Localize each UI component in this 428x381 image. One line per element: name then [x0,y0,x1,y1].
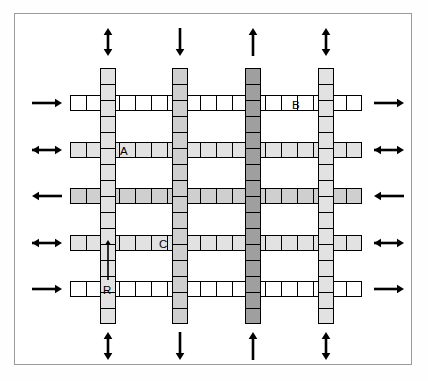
road-link[interactable] [246,293,260,309]
road-link[interactable] [246,229,260,245]
road-link[interactable] [173,117,187,133]
road-link[interactable] [298,282,314,296]
road-link[interactable] [266,96,282,110]
road-link[interactable] [282,282,298,296]
road-link[interactable] [217,282,233,296]
road-link[interactable] [201,236,217,250]
road-link[interactable] [136,96,152,110]
road-link[interactable] [173,197,187,213]
road-link[interactable] [173,245,187,261]
road-link[interactable] [101,165,115,181]
road-link[interactable] [319,245,333,261]
road-link[interactable] [319,197,333,213]
road-link[interactable] [101,197,115,213]
road-link[interactable] [246,101,260,117]
road-link[interactable] [282,236,298,250]
road-link[interactable] [173,293,187,309]
road-link[interactable] [217,143,233,157]
road-link[interactable] [173,277,187,293]
road-link[interactable] [217,189,233,203]
road-link[interactable] [152,143,168,157]
road-link[interactable] [217,236,233,250]
road-link[interactable] [120,236,136,250]
road-link[interactable] [201,96,217,110]
road-link[interactable] [319,85,333,101]
road-link[interactable] [266,282,282,296]
road-link[interactable] [319,133,333,149]
road-link[interactable] [101,117,115,133]
road-link[interactable] [173,309,187,324]
road-link[interactable] [282,189,298,203]
road-link[interactable] [347,189,362,203]
road-link[interactable] [246,117,260,133]
road-link[interactable] [319,277,333,293]
road-link[interactable] [120,189,136,203]
road-link[interactable] [246,85,260,101]
vertical-road-3[interactable] [245,68,261,324]
road-link[interactable] [173,181,187,197]
road-link[interactable] [319,229,333,245]
road-link[interactable] [152,282,168,296]
road-link[interactable] [319,149,333,165]
road-link[interactable] [173,85,187,101]
road-link[interactable] [282,143,298,157]
road-link[interactable] [347,143,362,157]
road-link[interactable] [71,282,87,296]
vertical-road-4[interactable] [318,68,334,324]
road-link[interactable] [266,189,282,203]
road-link[interactable] [246,149,260,165]
road-link[interactable] [173,69,187,85]
road-link[interactable] [173,101,187,117]
road-link[interactable] [319,181,333,197]
road-link[interactable] [136,282,152,296]
road-link[interactable] [201,282,217,296]
road-link[interactable] [71,236,87,250]
road-link[interactable] [246,133,260,149]
road-link[interactable] [173,213,187,229]
road-link[interactable] [246,69,260,85]
road-link[interactable] [101,69,115,85]
road-link[interactable] [266,143,282,157]
road-link[interactable] [173,229,187,245]
road-link[interactable] [217,96,233,110]
road-link[interactable] [173,149,187,165]
road-link[interactable] [101,181,115,197]
road-link[interactable] [173,261,187,277]
road-link[interactable] [319,69,333,85]
road-link[interactable] [298,96,314,110]
road-link[interactable] [71,96,87,110]
road-link[interactable] [71,143,87,157]
road-link[interactable] [347,282,362,296]
road-link[interactable] [246,261,260,277]
road-link[interactable] [319,261,333,277]
road-link[interactable] [173,133,187,149]
road-link[interactable] [136,189,152,203]
road-link[interactable] [246,165,260,181]
road-link[interactable] [298,236,314,250]
road-link[interactable] [298,189,314,203]
road-link[interactable] [319,293,333,309]
road-link[interactable] [246,181,260,197]
road-link[interactable] [246,213,260,229]
road-link[interactable] [347,96,362,110]
road-link[interactable] [201,143,217,157]
road-link[interactable] [246,245,260,261]
road-link[interactable] [319,117,333,133]
road-link[interactable] [71,189,87,203]
road-link[interactable] [246,197,260,213]
road-link[interactable] [101,85,115,101]
road-link[interactable] [120,96,136,110]
road-link[interactable] [136,236,152,250]
road-link[interactable] [246,277,260,293]
road-link[interactable] [152,96,168,110]
road-link[interactable] [152,189,168,203]
road-link[interactable] [319,165,333,181]
road-link[interactable] [101,101,115,117]
road-link[interactable] [101,149,115,165]
vertical-road-2[interactable] [172,68,188,324]
road-link[interactable] [136,143,152,157]
road-link[interactable] [347,236,362,250]
road-link[interactable] [101,133,115,149]
road-link[interactable] [319,309,333,324]
road-link[interactable] [319,213,333,229]
